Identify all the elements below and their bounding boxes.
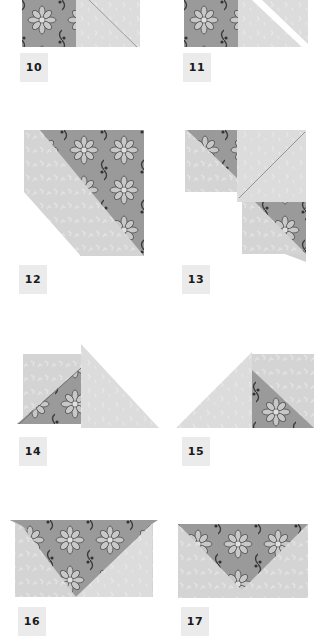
step-16-figure: [10, 520, 158, 600]
step-17-figure: [178, 524, 310, 602]
step-13-figure: [185, 130, 309, 265]
folded-paper-step-10: [22, 0, 142, 48]
step-label: 10: [20, 53, 48, 82]
step-15-figure: [176, 352, 314, 430]
step-label: 12: [19, 265, 47, 294]
step-14-figure: [15, 344, 161, 430]
step-label: 11: [183, 53, 211, 82]
step-label: 13: [182, 265, 210, 294]
step-label: 14: [19, 437, 47, 466]
step-label: 16: [18, 607, 46, 636]
folded-paper-step-16: [10, 520, 158, 600]
folded-paper-step-12: [24, 130, 146, 258]
folded-paper-step-13: [185, 130, 309, 265]
step-label: 15: [182, 437, 210, 466]
step-12-figure: [24, 130, 146, 258]
folded-paper-step-15: [176, 352, 314, 430]
folded-paper-step-17: [178, 524, 310, 602]
folded-paper-step-14: [15, 344, 161, 430]
step-10-figure: [22, 0, 142, 48]
step-label: 17: [181, 607, 209, 636]
folded-paper-step-11: [184, 0, 310, 48]
step-11-figure: [184, 0, 310, 48]
